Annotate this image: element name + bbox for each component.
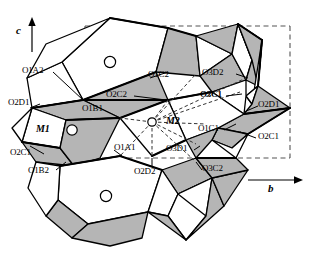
site-label-m1: M1 (36, 124, 50, 134)
axis-label-c: c (16, 25, 21, 36)
b-axis-arrowhead (294, 176, 303, 183)
oxygen-label-o2c1-left: O2C1 (10, 148, 31, 157)
oxygen-label-o1a1: O1A1 (114, 143, 135, 152)
oxygen-label-o2c2: O2C2 (106, 90, 127, 99)
interstitial-circle-top (104, 56, 115, 67)
oxygen-label-o3d2: O3D2 (202, 68, 223, 77)
oxygen-label-o1c1: O1C1 (198, 124, 219, 133)
polyhedra-faces (12, 18, 290, 246)
axis-label-b: b (268, 183, 273, 194)
interstitial-circle-bottom (100, 190, 111, 201)
site-label-m2: M2 (166, 116, 180, 126)
m2-atom-marker (148, 118, 156, 126)
oxygen-label-o1c2: O1C2 (148, 70, 169, 79)
oxygen-label-o3d1: O3D1 (166, 144, 187, 153)
oxygen-label-o3c2: O3C2 (202, 164, 223, 173)
oxygen-label-o2d1-right: O2D1 (258, 100, 279, 109)
oxygen-label-o3c1: O3C1 (200, 90, 222, 99)
c-axis-arrowhead (28, 17, 35, 26)
oxygen-label-o1b1: O1B1 (82, 104, 103, 113)
oxygen-label-o1b2: O1B2 (28, 166, 49, 175)
m1-atom-marker (67, 125, 77, 135)
oxygen-label-o1a2: O1A2 (22, 66, 43, 75)
oxygen-label-o2d1-left: O2D1 (8, 98, 29, 107)
oxygen-label-o2d2: O2D2 (134, 167, 155, 176)
crystal-structure-figure: c b M1 M2 O1A2 O2D1 O2C1 O1B2 O1A1 O2D2 … (0, 0, 333, 256)
oxygen-label-o2c1-right: O2C1 (258, 132, 279, 141)
